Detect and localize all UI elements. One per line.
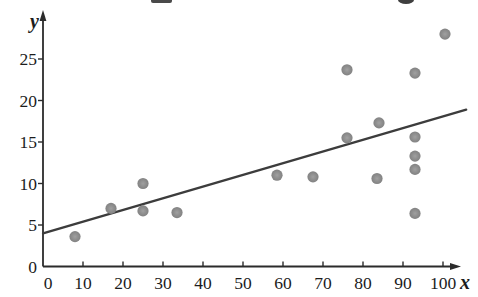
x-tick-label: 40 — [194, 273, 212, 293]
x-tick-label: 10 — [74, 273, 92, 293]
x-axis-arrow-icon — [450, 263, 461, 270]
x-axis-label: x — [459, 271, 470, 293]
data-point — [409, 68, 420, 79]
x-tick-label: 0 — [44, 273, 53, 293]
data-point — [307, 171, 318, 182]
data-point — [409, 208, 420, 219]
data-point — [137, 178, 148, 189]
data-point — [371, 173, 382, 184]
x-tick-label: 100 — [430, 273, 457, 293]
data-point — [171, 207, 182, 218]
x-tick-label: 80 — [354, 273, 372, 293]
x-tick-label: 50 — [234, 273, 252, 293]
y-axis-arrow-icon — [40, 10, 47, 21]
trend-line — [43, 110, 466, 234]
x-tick-label: 90 — [394, 273, 412, 293]
x-tick-label: 30 — [154, 273, 172, 293]
y-axis-label: y — [28, 10, 39, 33]
data-point — [137, 205, 148, 216]
scan-artifact — [151, 0, 172, 3]
data-point — [439, 28, 450, 39]
data-point — [341, 132, 352, 143]
data-point — [341, 64, 352, 75]
data-point — [271, 170, 282, 181]
y-tick-label: 20 — [20, 91, 38, 111]
y-tick-label: 0 — [28, 257, 37, 277]
scatter-plot: 01020304050607080901000510152025yx — [0, 0, 478, 297]
x-tick-label: 20 — [114, 273, 132, 293]
data-point — [409, 151, 420, 162]
data-point — [409, 164, 420, 175]
data-point — [69, 231, 80, 242]
y-tick-label: 10 — [20, 174, 38, 194]
scatter-plot-figure: 01020304050607080901000510152025yx — [0, 0, 478, 297]
data-point — [105, 203, 116, 214]
y-tick-label: 25 — [20, 49, 38, 69]
data-point — [409, 131, 420, 142]
y-tick-label: 5 — [28, 215, 37, 235]
data-point — [373, 117, 384, 128]
x-tick-label: 60 — [274, 273, 292, 293]
y-tick-label: 15 — [20, 132, 38, 152]
x-tick-label: 70 — [314, 273, 332, 293]
